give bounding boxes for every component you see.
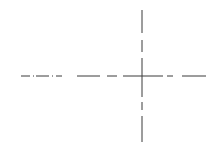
- drawing-canvas: [0, 0, 218, 155]
